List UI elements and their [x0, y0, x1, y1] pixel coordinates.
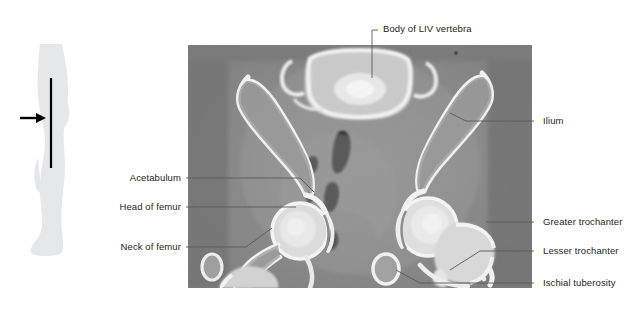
label-neck-of-femur: Neck of femur: [60, 241, 181, 252]
label-body-of-liv-vertebra: Body of LIV vertebra: [383, 23, 472, 34]
ct-pelvis-figure: Body of LIV vertebra Acetabulum Head of …: [0, 0, 640, 315]
label-acetabulum: Acetabulum: [60, 172, 181, 183]
label-head-of-femur: Head of femur: [60, 201, 181, 212]
label-ilium: Ilium: [543, 115, 564, 126]
orientation-thumbnail: [18, 40, 98, 265]
label-ischial-tuberosity: Ischial tuberosity: [543, 277, 616, 288]
label-greater-trochanter: Greater trochanter: [543, 216, 622, 227]
label-lesser-trochanter: Lesser trochanter: [543, 245, 619, 256]
ct-image: [188, 45, 532, 288]
